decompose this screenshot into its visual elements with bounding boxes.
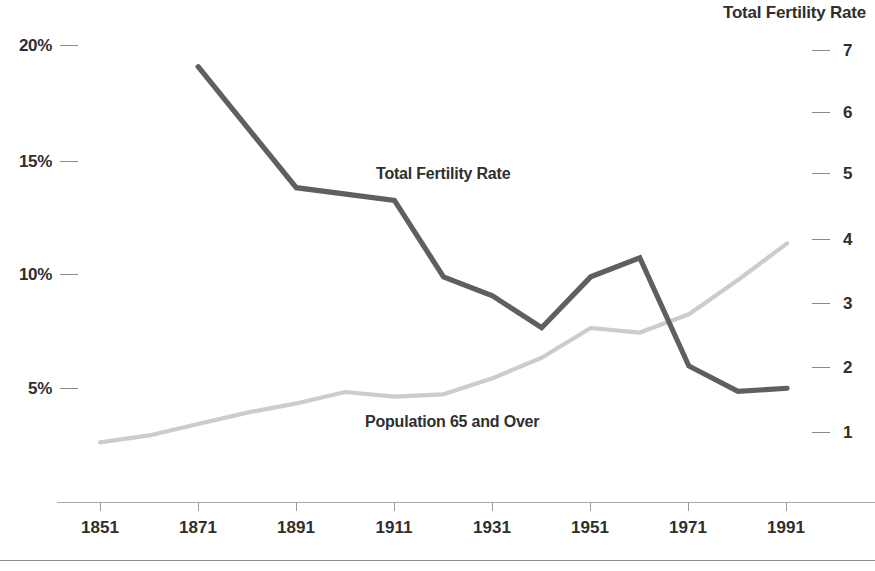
x-axis-line bbox=[57, 502, 875, 503]
x-axis-tick-mark-1911 bbox=[394, 502, 395, 511]
x-axis-tick-mark-1851 bbox=[100, 502, 101, 511]
footer-divider bbox=[0, 560, 875, 561]
series-annotation-population: Population 65 and Over bbox=[365, 413, 539, 431]
x-axis-tick-label-1951: 1951 bbox=[550, 518, 630, 538]
plot-area bbox=[0, 0, 875, 571]
chart-figure: Total Fertility Rate 20% 15% 10% 5% 7 6 … bbox=[0, 0, 875, 571]
total-fertility-rate-line bbox=[198, 67, 787, 392]
x-axis-tick-mark-1951 bbox=[590, 502, 591, 511]
x-axis-tick-label-1891: 1891 bbox=[256, 518, 336, 538]
x-axis-tick-mark-1931 bbox=[492, 502, 493, 511]
x-axis-tick-label-1931: 1931 bbox=[452, 518, 532, 538]
x-axis-tick-mark-1891 bbox=[296, 502, 297, 511]
x-axis-tick-mark-1991 bbox=[786, 502, 787, 511]
series-annotation-fertility: Total Fertility Rate bbox=[376, 165, 510, 183]
x-axis-tick-label-1911: 1911 bbox=[354, 518, 434, 538]
x-axis-tick-label-1871: 1871 bbox=[158, 518, 238, 538]
x-axis-tick-label-1991: 1991 bbox=[746, 518, 826, 538]
x-axis-tick-label-1851: 1851 bbox=[60, 518, 140, 538]
x-axis-tick-mark-1971 bbox=[688, 502, 689, 511]
x-axis-tick-label-1971: 1971 bbox=[648, 518, 728, 538]
x-axis-tick-mark-1871 bbox=[198, 502, 199, 511]
